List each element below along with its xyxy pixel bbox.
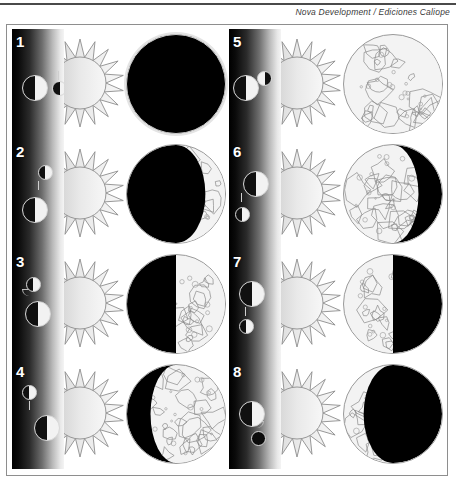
orbit-strip: 3	[12, 249, 64, 359]
panel-columns: 1234 5678	[12, 29, 442, 471]
column-right: 5678	[229, 29, 442, 471]
moon-marker	[251, 431, 266, 446]
phase-disc-wrap	[343, 249, 443, 359]
moon-marker	[22, 385, 37, 400]
moon-marker	[235, 207, 250, 222]
moon-phase-disc	[126, 34, 226, 134]
orbit-strip: 8	[229, 359, 281, 469]
moon-phase-disc	[126, 144, 226, 244]
credit-line: Nova Development / Ediciones Caliope	[295, 7, 450, 17]
panel-number: 4	[16, 364, 24, 379]
moon-phase-disc	[343, 364, 443, 464]
orbit-strip: 5	[229, 29, 281, 139]
phase-panel: 6	[229, 139, 442, 249]
panel-number: 5	[233, 34, 241, 49]
sun-icon	[64, 29, 126, 139]
phase-panel: 5	[229, 29, 442, 139]
earth-marker	[239, 281, 265, 307]
sun-icon	[64, 359, 126, 469]
phase-panel: 4	[12, 359, 225, 469]
phase-panel: 7	[229, 249, 442, 359]
orbit-strip: 1	[12, 29, 64, 139]
earth-marker	[22, 197, 48, 223]
moon-phases-figure: 1234 5678	[6, 24, 448, 476]
sun-icon	[64, 139, 126, 249]
phase-disc-wrap	[126, 249, 226, 359]
phase-disc-wrap	[126, 139, 226, 249]
phase-disc-wrap	[126, 359, 226, 469]
phase-panel: 8	[229, 359, 442, 469]
orbit-strip: 7	[229, 249, 281, 359]
moon-marker	[239, 319, 254, 334]
panel-number: 6	[233, 144, 241, 159]
orbit-strip: 4	[12, 359, 64, 469]
panel-number: 7	[233, 254, 241, 269]
sun-icon	[281, 139, 343, 249]
moon-phase-disc	[126, 254, 226, 354]
sun-icon	[64, 249, 126, 359]
column-left: 1234	[12, 29, 225, 471]
earth-marker	[25, 301, 51, 327]
moon-phase-disc	[343, 34, 443, 134]
moon-marker	[257, 71, 272, 86]
phase-panel: 2	[12, 139, 225, 249]
sun-icon	[281, 249, 343, 359]
orbit-strip: 2	[12, 139, 64, 249]
orbit-tether	[38, 181, 39, 190]
panel-number: 1	[16, 34, 24, 49]
moon-phase-disc	[126, 364, 226, 464]
phase-disc-wrap	[343, 29, 443, 139]
moon-marker	[38, 165, 53, 180]
sun-icon	[281, 359, 343, 469]
phase-panel: 1	[12, 29, 225, 139]
panel-number: 2	[16, 144, 24, 159]
moon-phase-disc	[343, 254, 443, 354]
moon-marker	[26, 277, 41, 292]
header-rule	[0, 3, 456, 5]
earth-marker	[34, 415, 60, 441]
orbit-strip: 6	[229, 139, 281, 249]
phase-disc-wrap	[343, 139, 443, 249]
earth-marker	[243, 171, 269, 197]
earth-marker	[239, 401, 265, 427]
orbit-tether	[58, 71, 59, 80]
panel-number: 8	[233, 364, 241, 379]
moon-phase-disc	[343, 144, 443, 244]
phase-disc-wrap	[126, 29, 226, 139]
earth-marker	[233, 75, 259, 101]
panel-number: 3	[16, 254, 24, 269]
earth-marker	[22, 75, 48, 101]
phase-disc-wrap	[343, 359, 443, 469]
orbit-tether	[241, 193, 242, 202]
orbit-tether	[245, 307, 246, 316]
orbit-tether	[29, 401, 30, 410]
phase-panel: 3	[12, 249, 225, 359]
sun-icon	[281, 29, 343, 139]
